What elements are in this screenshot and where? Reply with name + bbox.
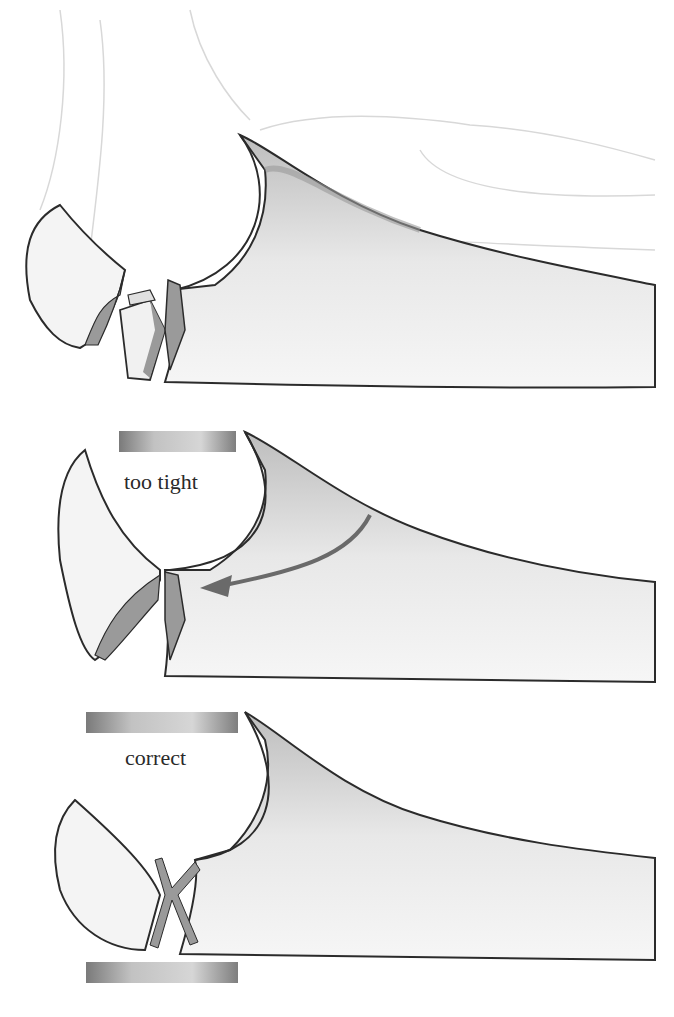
panel-fracture [26,10,655,387]
label-too-tight: too tight [124,469,198,495]
olecranon-diagram [0,0,674,1017]
label-correct: correct [125,745,186,771]
ulna-shaft-2 [165,432,655,682]
plate-correct-top [86,712,238,733]
ulna-shaft [165,135,655,387]
plate-correct-bottom [86,962,238,983]
plate-too-tight [119,431,236,452]
proximal-fragment-3 [55,800,160,950]
proximal-fragment [26,205,125,348]
